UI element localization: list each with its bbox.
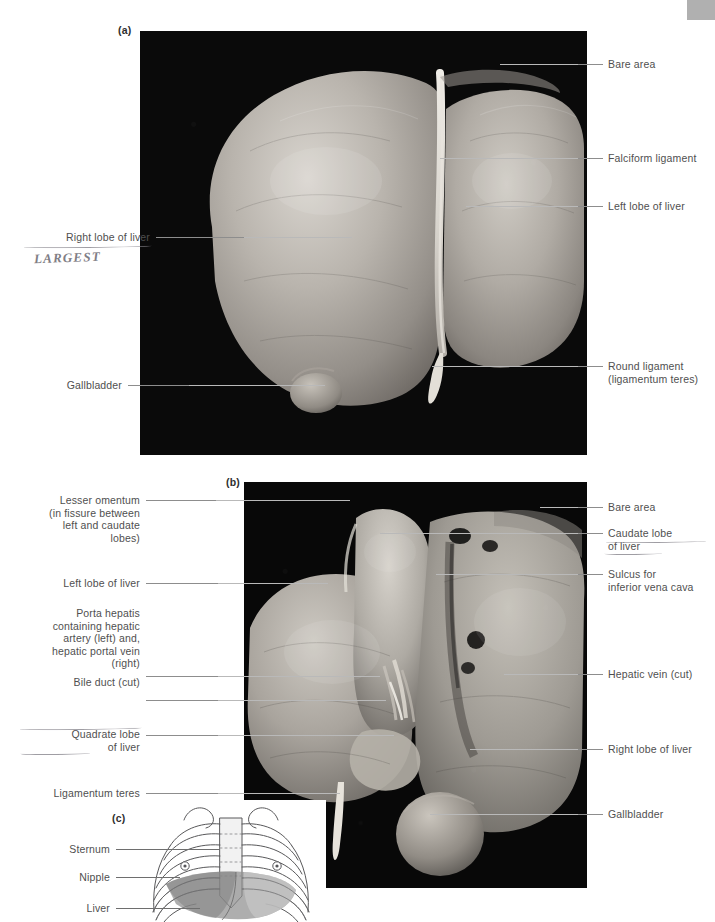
label-b-hepatic-vein: Hepatic vein (cut)	[608, 668, 692, 681]
leader-a-right-lobe	[156, 237, 244, 238]
leader-b-right-lobe-over-photo	[470, 749, 578, 750]
leader-b-ligamentum-teres-over-photo	[218, 793, 340, 794]
panel-a-photograph	[140, 31, 587, 455]
leader-b-bile-duct	[146, 700, 218, 701]
label-a-round-ligament: Round ligament (ligamentum teres)	[608, 360, 698, 385]
leader-b-hepatic-vein-over-photo	[504, 674, 578, 675]
leader-b-gallbladder-over-photo	[430, 814, 578, 815]
leader-a-bare-area-over-photo	[500, 64, 578, 65]
leader-b-left-lobe	[146, 583, 218, 584]
leader-a-left-lobe-over-photo	[466, 206, 578, 207]
label-a-falciform: Falciform ligament	[608, 152, 696, 165]
label-b-ivc-sulcus: Sulcus for inferior vena cava	[608, 568, 694, 593]
leader-b-hepatic-vein	[578, 674, 603, 675]
label-c-sternum: Sternum	[0, 843, 110, 856]
handwritten-note-largest: LARGEST	[34, 249, 101, 268]
label-b-quadrate-lobe: Quadrate lobe of liver	[0, 728, 140, 753]
leader-b-quadrate-lobe-over-photo	[218, 735, 394, 736]
leader-c-liver	[116, 908, 200, 909]
leader-a-gallbladder-over-photo	[189, 385, 325, 386]
leader-b-ivc-sulcus	[578, 574, 603, 575]
leader-c-sternum	[116, 849, 220, 850]
label-a-bare-area: Bare area	[608, 58, 655, 71]
leader-a-round-ligament-over-photo	[432, 366, 578, 367]
leader-c-nipple	[116, 877, 180, 878]
leader-b-quadrate-lobe	[146, 735, 218, 736]
label-b-left-lobe: Left lobe of liver	[0, 577, 140, 590]
pencil-underline-quadrate-bottom	[20, 752, 90, 756]
leader-a-falciform	[578, 158, 603, 159]
leader-b-caudate-lobe	[578, 533, 603, 534]
thoracic-cage-liver-projection	[136, 800, 326, 922]
scan-edge-artifact	[687, 0, 715, 20]
label-a-gallbladder: Gallbladder	[0, 379, 122, 392]
leader-b-caudate-lobe-over-photo	[380, 533, 578, 534]
leader-b-porta-hepatis-over-photo	[218, 676, 380, 677]
label-b-gallbladder: Gallbladder	[608, 808, 663, 821]
leader-a-right-lobe-over-photo	[244, 237, 352, 238]
leader-b-ivc-sulcus-over-photo	[436, 574, 578, 575]
leader-a-round-ligament	[578, 366, 603, 367]
leader-a-falciform-over-photo	[440, 158, 578, 159]
label-a-left-lobe: Left lobe of liver	[608, 200, 685, 213]
leader-b-lesser-omentum-over-photo	[216, 500, 350, 501]
label-b-porta-hepatis: Porta hepatis containing hepatic artery …	[0, 607, 140, 670]
leader-b-bare-area	[578, 507, 603, 508]
leader-b-lesser-omentum	[146, 500, 216, 501]
label-b-lesser-omentum: Lesser omentum (in fissure between left …	[0, 494, 140, 544]
label-b-ligamentum-teres: Ligamentum teres	[0, 787, 140, 800]
leader-b-gallbladder	[578, 814, 603, 815]
panel-b-tag: (b)	[226, 476, 240, 488]
pencil-underline-caudate-bottom	[604, 552, 662, 556]
pencil-underline-right-lobe	[24, 244, 152, 248]
photo-grain-a	[140, 31, 587, 455]
figure-page: (a)	[0, 0, 715, 922]
panel-c-drawing	[136, 800, 326, 922]
leader-b-porta-hepatis	[146, 676, 218, 677]
leader-b-bare-area-over-photo	[540, 507, 578, 508]
liver-projection-shading	[166, 872, 296, 921]
panel-c-tag: (c)	[112, 812, 125, 824]
pencil-underline-caudate-top	[606, 539, 706, 543]
label-a-right-lobe: Right lobe of liver	[0, 231, 150, 244]
leader-a-left-lobe	[578, 206, 603, 207]
label-b-bare-area: Bare area	[608, 501, 655, 514]
leader-b-right-lobe	[578, 749, 603, 750]
label-b-bile-duct: Bile duct (cut)	[0, 676, 140, 689]
leader-a-bare-area	[578, 64, 603, 65]
leader-b-left-lobe-over-photo	[218, 583, 328, 584]
panel-a-tag: (a)	[118, 24, 131, 36]
label-c-liver: Liver	[0, 902, 110, 915]
leader-b-ligamentum-teres	[146, 793, 218, 794]
leader-b-bile-duct-over-photo	[218, 700, 386, 701]
label-c-nipple: Nipple	[0, 871, 110, 884]
leader-a-gallbladder	[128, 385, 189, 386]
label-b-right-lobe: Right lobe of liver	[608, 743, 692, 756]
